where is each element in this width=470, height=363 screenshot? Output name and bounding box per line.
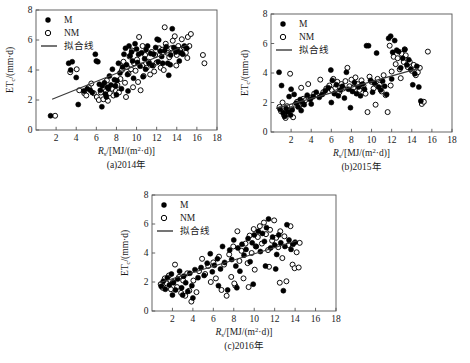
- x-tick-label: 16: [311, 314, 321, 324]
- x-tick-label: 14: [172, 133, 182, 143]
- x-tick-label: 18: [212, 133, 222, 143]
- data-point-m: [166, 73, 171, 78]
- legend-label-nm: NM: [180, 213, 196, 223]
- data-point-m: [237, 269, 242, 274]
- data-point-m: [286, 237, 291, 242]
- data-point-m: [414, 64, 419, 69]
- data-point-m: [141, 74, 146, 79]
- data-point-m: [104, 95, 109, 100]
- panel-b-plot: 0246824681012141618MNM拟合线ETc/(mm·d)Rs/[M…: [235, 0, 470, 182]
- legend-label-fit: 拟合线: [64, 40, 94, 51]
- panel-caption: (c)2016年: [224, 340, 264, 352]
- data-point-nm: [179, 37, 184, 42]
- data-point-m: [100, 83, 105, 88]
- x-axis-label: Rs/[MJ/(m2·d)]: [97, 145, 155, 157]
- data-point-m: [145, 44, 150, 49]
- data-point-m: [402, 47, 407, 52]
- data-point-m: [358, 93, 363, 98]
- data-point-nm: [188, 32, 193, 37]
- data-point-nm: [174, 63, 179, 68]
- data-point-m: [150, 63, 155, 68]
- data-point-nm: [398, 76, 403, 81]
- data-point-m: [218, 266, 223, 271]
- data-point-nm: [194, 290, 199, 295]
- data-point-m: [284, 222, 289, 227]
- data-point-nm: [318, 77, 323, 82]
- data-point-m: [225, 287, 230, 292]
- legend-marker-m: [280, 21, 285, 26]
- x-tick-label: 2: [289, 135, 294, 145]
- y-tick-label: 4: [28, 65, 33, 75]
- data-point-m: [168, 62, 173, 67]
- data-point-nm: [395, 56, 400, 61]
- x-tick-label: 12: [270, 314, 280, 324]
- legend-marker-m: [161, 202, 166, 207]
- data-point-m: [260, 231, 265, 236]
- data-point-nm: [136, 80, 141, 85]
- panel-2016: 0246824681012141618MNM拟合线ETc/(mm·d)Rs/[M…: [112, 181, 357, 363]
- data-point-nm: [387, 43, 392, 48]
- data-point-nm: [131, 85, 136, 90]
- data-point-m: [74, 75, 79, 80]
- legend-marker-m: [45, 17, 50, 22]
- data-point-m: [239, 242, 244, 247]
- data-point-m: [210, 269, 215, 274]
- data-point-m: [168, 53, 173, 58]
- y-tick-label: 4: [263, 68, 268, 78]
- data-point-m: [205, 261, 210, 266]
- legend-label-m: M: [64, 15, 73, 25]
- data-point-m: [233, 264, 238, 269]
- data-point-nm: [152, 69, 157, 74]
- data-point-m: [248, 259, 253, 264]
- data-point-m: [180, 52, 185, 57]
- data-point-m: [344, 70, 349, 75]
- data-point-m: [279, 83, 284, 88]
- y-tick-label: 0: [144, 306, 149, 316]
- data-point-nm: [282, 234, 287, 239]
- data-point-m: [153, 45, 158, 50]
- data-point-m: [309, 101, 314, 106]
- data-point-nm: [365, 110, 370, 115]
- data-point-nm: [299, 85, 304, 90]
- data-point-m: [170, 26, 175, 31]
- data-point-m: [396, 49, 401, 54]
- legend-marker-nm: [280, 34, 285, 39]
- data-point-m: [216, 283, 221, 288]
- data-point-m: [99, 104, 104, 109]
- data-point-m: [76, 102, 81, 107]
- data-point-m: [366, 43, 371, 48]
- data-point-m: [244, 247, 249, 252]
- x-tick-label: 18: [447, 135, 457, 145]
- data-point-m: [170, 293, 175, 298]
- data-point-m: [400, 56, 405, 61]
- data-point-m: [328, 68, 333, 73]
- data-point-nm: [294, 250, 299, 255]
- data-point-m: [246, 236, 251, 241]
- data-point-nm: [353, 75, 358, 80]
- data-point-m: [305, 93, 310, 98]
- data-point-nm: [272, 218, 277, 223]
- y-tick-label: 0: [28, 125, 33, 135]
- x-axis-label: Rs/[MJ/(m2·d)]: [332, 147, 390, 159]
- data-point-m: [164, 44, 169, 49]
- y-tick-label: 2: [263, 98, 268, 108]
- x-tick-label: 8: [349, 135, 354, 145]
- data-point-nm: [373, 102, 378, 107]
- data-point-m: [208, 251, 213, 256]
- legend-label-nm: NM: [64, 28, 80, 38]
- data-point-nm: [202, 61, 207, 66]
- legend-label-fit: 拟合线: [299, 44, 329, 55]
- data-point-m: [263, 264, 268, 269]
- y-tick-label: 8: [263, 9, 268, 19]
- fit-line: [159, 241, 297, 283]
- legend-label-nm: NM: [299, 32, 315, 42]
- data-point-m: [416, 85, 421, 90]
- data-point-m: [151, 52, 156, 57]
- data-point-m: [110, 67, 115, 72]
- data-point-m: [202, 273, 207, 278]
- panel-a-plot: 0246824681012141618MNM拟合线ETc/(mm·d)Rs/[M…: [0, 0, 235, 182]
- data-point-nm: [200, 53, 205, 58]
- x-tick-label: 4: [191, 314, 196, 324]
- data-point-nm: [388, 83, 393, 88]
- data-point-m: [235, 245, 240, 250]
